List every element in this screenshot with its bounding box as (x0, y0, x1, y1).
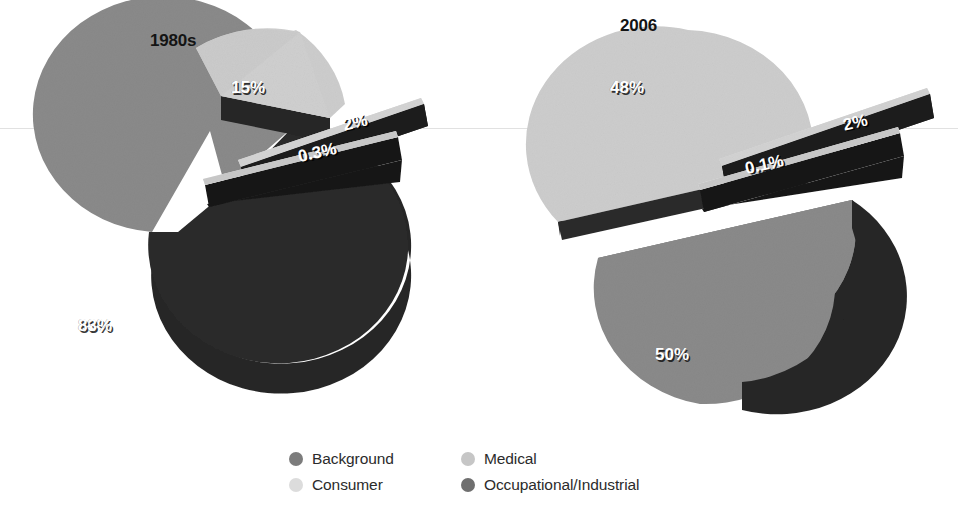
legend-label-medical: Medical (484, 450, 537, 468)
legend-swatch-medical-icon (461, 452, 475, 466)
chart-legend: Background Medical Consumer Occupational… (289, 446, 709, 498)
chart-title-2006: 2006 (620, 16, 657, 36)
pie-chart-figure: 1980s 2006 83% 15% 2% 0.3% 50% 48% 2% 0.… (0, 0, 958, 515)
slice-medical-2006 (526, 26, 813, 240)
charts-canvas (0, 0, 958, 445)
legend-item-medical: Medical (461, 450, 709, 468)
legend-label-background: Background (312, 450, 394, 468)
legend-label-consumer: Consumer (312, 476, 383, 494)
legend-item-occupational: Occupational/Industrial (461, 476, 709, 494)
legend-swatch-background-icon (289, 452, 303, 466)
legend-item-consumer: Consumer (289, 476, 461, 494)
legend-label-occupational: Occupational/Industrial (484, 476, 639, 494)
pie-chart-1980s (33, 0, 428, 394)
chart-title-1980s: 1980s (150, 31, 196, 51)
slice-background-2006 (594, 200, 907, 414)
legend-item-background: Background (289, 450, 461, 468)
pie-chart-2006 (526, 26, 934, 414)
legend-swatch-consumer-icon (289, 478, 303, 492)
legend-swatch-occupational-icon (461, 478, 475, 492)
